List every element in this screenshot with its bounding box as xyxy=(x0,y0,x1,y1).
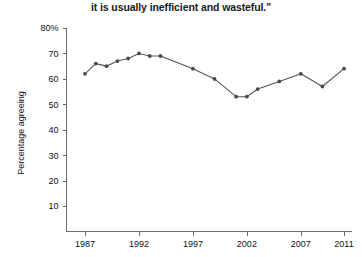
data-point-marker xyxy=(159,54,163,58)
data-point-marker xyxy=(299,72,303,76)
x-tick-label: 1992 xyxy=(129,239,149,249)
chart-container: it is usually inefficient and wasteful."… xyxy=(0,0,362,257)
y-tick-label: 10 xyxy=(48,201,58,211)
x-tick-marks xyxy=(86,232,345,236)
y-axis: 80%70605040302010 xyxy=(40,23,66,232)
data-point-marker xyxy=(191,67,195,71)
y-tick-label: 20 xyxy=(48,176,58,186)
plot-area: 80%70605040302010 1987199219972002200720… xyxy=(0,0,362,257)
y-tick-label: 30 xyxy=(48,151,58,161)
x-axis: 198719921997200220072011 xyxy=(67,232,354,249)
x-tick-label: 2011 xyxy=(334,239,353,249)
y-tick-label: 70 xyxy=(48,49,58,59)
x-tick-label: 2007 xyxy=(291,239,311,249)
y-tick-label: 60 xyxy=(48,74,58,84)
series-markers xyxy=(83,52,346,99)
y-tick-label: 80% xyxy=(40,23,58,33)
data-point-marker xyxy=(83,72,87,76)
data-point-marker xyxy=(277,80,281,84)
data-series xyxy=(83,52,346,99)
data-point-marker xyxy=(137,52,141,56)
data-point-marker xyxy=(126,57,130,61)
data-point-marker xyxy=(245,95,249,99)
x-tick-label: 1997 xyxy=(183,239,203,249)
y-tick-label: 40 xyxy=(48,125,58,135)
data-point-marker xyxy=(342,67,346,71)
data-point-marker xyxy=(256,87,260,91)
data-point-marker xyxy=(321,85,325,89)
y-tick-labels: 80%70605040302010 xyxy=(40,23,58,211)
y-tick-label: 50 xyxy=(48,100,58,110)
data-point-marker xyxy=(234,95,238,99)
data-point-marker xyxy=(105,64,109,68)
data-point-marker xyxy=(213,77,217,81)
series-line-percentage-agreeing xyxy=(85,53,344,96)
data-point-marker xyxy=(115,59,119,63)
data-point-marker xyxy=(94,62,98,66)
y-tick-marks xyxy=(63,29,67,207)
x-tick-label: 2002 xyxy=(237,239,257,249)
x-tick-label: 1987 xyxy=(75,239,95,249)
data-point-marker xyxy=(148,54,152,58)
x-tick-labels: 198719921997200220072011 xyxy=(75,239,354,249)
